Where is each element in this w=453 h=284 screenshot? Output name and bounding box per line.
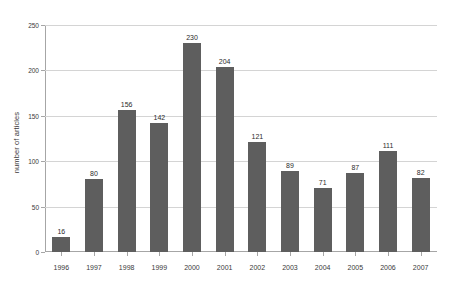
bar-group[interactable]: 872005: [339, 25, 372, 252]
bar-value-label: 142: [153, 114, 165, 121]
x-tick-mark: [61, 252, 62, 256]
bar-value-label: 121: [251, 133, 263, 140]
bar-group[interactable]: 712004: [306, 25, 339, 252]
bar-group[interactable]: 801997: [78, 25, 111, 252]
x-tick-label: 2001: [217, 264, 233, 271]
bar-value-label: 230: [186, 34, 198, 41]
bar-value-label: 82: [417, 169, 425, 176]
y-tick-label: 100: [28, 158, 39, 165]
y-tick-label: 0: [35, 249, 39, 256]
bar-group[interactable]: 1421999: [143, 25, 176, 252]
y-axis-title-label: number of articles: [13, 111, 22, 172]
bar-value-label: 156: [121, 101, 133, 108]
x-tick-label: 1999: [152, 264, 168, 271]
bar-group[interactable]: 822007: [404, 25, 437, 252]
bar-value-label: 89: [286, 162, 294, 169]
bar-series: 1619968019971561998142199923020002042001…: [45, 25, 437, 252]
x-tick-mark: [94, 252, 95, 256]
x-tick-mark: [421, 252, 422, 256]
x-tick-mark: [355, 252, 356, 256]
bar-chart: number of articles 050100150200250 16199…: [0, 0, 453, 284]
bar[interactable]: [183, 43, 201, 252]
x-tick-mark: [290, 252, 291, 256]
x-tick-mark: [192, 252, 193, 256]
bar[interactable]: [314, 188, 332, 252]
x-tick-mark: [257, 252, 258, 256]
x-tick-label: 2007: [413, 264, 429, 271]
x-tick-label: 2002: [250, 264, 266, 271]
bar-value-label: 71: [319, 179, 327, 186]
bar-group[interactable]: 161996: [45, 25, 78, 252]
plot-area: 050100150200250 161996801997156199814219…: [45, 25, 437, 252]
x-tick-mark: [225, 252, 226, 256]
bar[interactable]: [281, 171, 299, 252]
x-tick-mark: [388, 252, 389, 256]
bar[interactable]: [346, 173, 364, 252]
x-tick-label: 2006: [380, 264, 396, 271]
bar-group[interactable]: 2302000: [176, 25, 209, 252]
x-tick-mark: [323, 252, 324, 256]
bar-group[interactable]: 1212002: [241, 25, 274, 252]
x-tick-mark: [159, 252, 160, 256]
y-tick-label: 200: [28, 67, 39, 74]
bar-group[interactable]: 892003: [274, 25, 307, 252]
bar[interactable]: [216, 67, 234, 252]
bar[interactable]: [379, 151, 397, 252]
bar-value-label: 16: [57, 228, 65, 235]
bar-value-label: 80: [90, 170, 98, 177]
bar[interactable]: [412, 178, 430, 252]
y-tick-mark: [41, 252, 45, 253]
bar[interactable]: [248, 142, 266, 252]
x-tick-label: 2003: [282, 264, 298, 271]
bar-value-label: 111: [383, 142, 394, 149]
bar[interactable]: [85, 179, 103, 252]
bar[interactable]: [150, 123, 168, 252]
x-tick-label: 2004: [315, 264, 331, 271]
bar-group[interactable]: 1112006: [372, 25, 405, 252]
bar-value-label: 204: [219, 58, 231, 65]
x-tick-label: 2005: [348, 264, 364, 271]
bar-group[interactable]: 2042001: [208, 25, 241, 252]
y-axis-title: number of articles: [8, 0, 26, 284]
x-tick-label: 1998: [119, 264, 135, 271]
bar-value-label: 87: [351, 164, 359, 171]
y-tick-label: 250: [28, 22, 39, 29]
bar-group[interactable]: 1561998: [110, 25, 143, 252]
bar[interactable]: [118, 110, 136, 252]
x-tick-label: 2000: [184, 264, 200, 271]
y-tick-label: 50: [32, 203, 39, 210]
x-tick-mark: [127, 252, 128, 256]
x-tick-label: 1997: [86, 264, 102, 271]
bar[interactable]: [52, 237, 70, 252]
x-tick-label: 1996: [54, 264, 70, 271]
y-tick-label: 150: [28, 112, 39, 119]
